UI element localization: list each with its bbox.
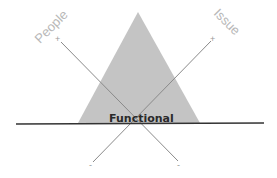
- functional-label: Functional: [109, 112, 174, 125]
- people-negative-sign: -: [177, 160, 180, 170]
- issue-positive-sign: +: [210, 34, 215, 44]
- people-axis-label: People: [32, 7, 71, 46]
- issue-negative-sign: -: [89, 160, 92, 170]
- functional-triangle: [78, 12, 200, 123]
- functional-diagram: Functional People + - Issue + -: [0, 0, 277, 178]
- people-positive-sign: +: [55, 34, 60, 44]
- issue-axis-label: Issue: [211, 6, 244, 39]
